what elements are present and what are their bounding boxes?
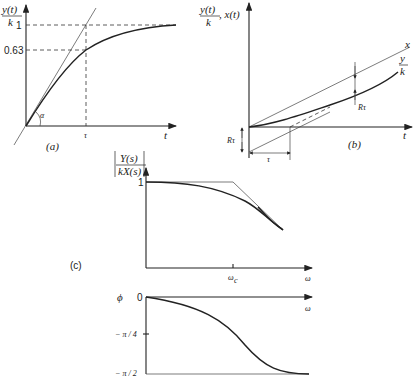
tick-minus-pi2: − π / 2 — [115, 369, 137, 378]
tick-minus-pi4: − π / 4 — [115, 330, 137, 339]
x-label: t — [403, 129, 407, 141]
ramp-response-curve — [249, 72, 398, 127]
r-tau-right: Rτ — [357, 103, 367, 112]
x-line-label: x — [404, 38, 410, 50]
magnitude-curve — [146, 182, 283, 230]
phi-label: ϕ — [117, 291, 123, 303]
yk-num: y — [399, 52, 405, 64]
panel-c-phase: ϕ 0 − π / 4 − π / 2 ω — [115, 291, 312, 378]
y-label-num: y(t) — [1, 3, 18, 16]
tick-tau: τ — [84, 131, 88, 140]
input-ramp-x — [249, 47, 410, 127]
wc-subscript: c — [234, 276, 238, 285]
y-label-den: k — [8, 16, 14, 28]
tick-1: 1 — [138, 177, 144, 188]
tick-063: 0.63 — [4, 45, 24, 56]
mag-label-den: kX(s) — [118, 165, 142, 178]
x-label: t — [164, 129, 168, 141]
figure-canvas: α y(t) k 1 0.63 τ t (a) Rτ Rτ — [0, 0, 414, 383]
phase-curve — [146, 297, 309, 374]
step-response-curve — [26, 25, 176, 126]
magnitude-curve-tail — [258, 207, 283, 230]
panel-c-magnitude: 1 Y(s) kX(s) ω c ω (c) — [70, 151, 312, 285]
y-label-extra: , x(t) — [219, 8, 240, 21]
asymptote-dash — [290, 107, 330, 127]
x-label: ω — [305, 304, 311, 313]
panel-a-label: (a) — [46, 140, 59, 153]
panel-c-label: (c) — [70, 260, 82, 271]
tick-0: 0 — [137, 292, 143, 303]
tick-1: 1 — [16, 20, 22, 31]
tau-label: τ — [267, 155, 271, 164]
panel-b-label: (b) — [348, 138, 361, 151]
panel-b: Rτ Rτ τ y(t) k , x(t) x y k t (b) — [199, 3, 412, 164]
yk-den: k — [400, 65, 406, 77]
y-label-den: k — [206, 16, 212, 28]
panel-a: α y(t) k 1 0.63 τ t (a) — [1, 3, 176, 153]
y-label-num: y(t) — [199, 3, 216, 16]
mag-label-num: Y(s) — [120, 152, 138, 165]
x-label: ω — [305, 274, 311, 283]
angle-label: α — [40, 111, 45, 120]
r-tau-left: Rτ — [226, 136, 236, 145]
